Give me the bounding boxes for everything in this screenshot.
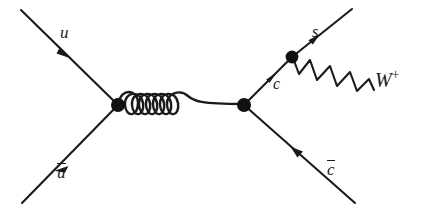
feynman-diagram-canvas: u u c c s W+ xyxy=(0,0,428,212)
vertex-dot-w-emission xyxy=(286,51,299,64)
fermion-line-u-incoming xyxy=(21,10,118,105)
label-c-quark: c xyxy=(273,76,280,92)
label-cbar-quark: c xyxy=(327,160,335,178)
w-boson-propagator xyxy=(293,58,374,91)
label-c-text: c xyxy=(273,75,280,92)
label-u-text: u xyxy=(60,23,69,42)
label-w-text: W xyxy=(375,69,392,91)
s-quark-line xyxy=(292,9,352,57)
vertex-dot-right xyxy=(237,98,251,112)
gluon-propagator xyxy=(119,92,243,114)
ubar-quark-line xyxy=(22,105,118,203)
label-w-boson: W+ xyxy=(375,68,399,90)
u-quark-arrow-icon xyxy=(57,47,71,58)
label-ubar-text: u xyxy=(57,163,66,181)
w-boson-wavy-line xyxy=(293,58,374,91)
fermion-line-c-internal xyxy=(244,57,292,105)
label-u-quark: u xyxy=(60,24,69,41)
label-ubar-quark: u xyxy=(57,163,66,181)
fermion-line-ubar-incoming xyxy=(22,105,118,203)
label-s-quark: s xyxy=(312,24,318,40)
label-cbar-text: c xyxy=(327,160,335,178)
label-w-charge: + xyxy=(392,67,400,82)
gluon-coil-path xyxy=(119,92,243,114)
label-s-text: s xyxy=(312,23,318,40)
fermion-line-s-outgoing xyxy=(292,9,352,57)
vertex-dot-left xyxy=(111,98,125,112)
fermion-line-cbar-outgoing xyxy=(244,105,355,203)
gluon-coil-loops xyxy=(119,92,243,114)
